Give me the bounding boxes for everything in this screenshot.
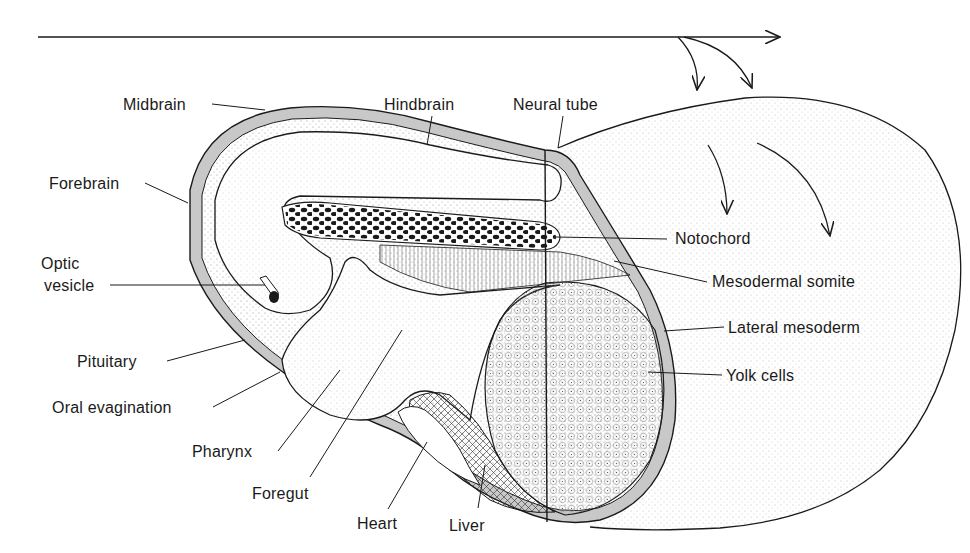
label-mesodermal-somite: Mesodermal somite <box>712 272 855 291</box>
label-optic-vesicle-line1: Optic <box>41 254 79 273</box>
label-yolk-cells: Yolk cells <box>726 366 794 385</box>
label-foregut: Foregut <box>252 484 309 503</box>
label-neural-tube: Neural tube <box>513 95 598 114</box>
label-hindbrain: Hindbrain <box>384 95 454 114</box>
label-pituitary: Pituitary <box>77 352 137 371</box>
label-pharynx: Pharynx <box>192 442 252 461</box>
label-midbrain: Midbrain <box>123 95 186 114</box>
label-optic-vesicle-line2: vesicle <box>44 276 94 295</box>
label-lateral-mesoderm: Lateral mesoderm <box>728 318 860 337</box>
label-liver: Liver <box>449 516 485 535</box>
label-notochord: Notochord <box>675 229 751 248</box>
label-oral-evagination: Oral evagination <box>52 398 172 417</box>
label-heart: Heart <box>357 514 397 533</box>
label-forebrain: Forebrain <box>49 174 119 193</box>
